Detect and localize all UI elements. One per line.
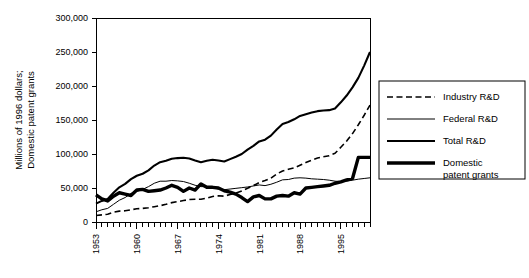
legend-label[interactable]: Industry R&D [443,91,500,102]
y-tick-label: 50,000 [60,183,88,193]
y-axis-title-line: Millions of 1996 dollars; [13,70,24,169]
y-axis-title: Millions of 1996 dollars;Domestic patent… [13,70,36,169]
x-tick-label: 1974 [214,234,224,254]
legend-label[interactable]: Federal R&D [443,113,498,124]
x-tick-label: 1960 [132,234,142,254]
x-tick-label: 1995 [336,234,346,254]
y-tick-label: 250,000 [55,47,88,57]
y-tick-label: 300,000 [55,13,88,23]
x-tick-label: 1981 [255,234,265,254]
x-tick-label: 1953 [91,234,101,254]
y-tick-label: 100,000 [55,149,88,159]
y-tick-label: 150,000 [55,115,88,125]
legend-label[interactable]: Total R&D [443,135,486,146]
legend-label-continued[interactable]: patent grants [443,169,499,180]
x-tick-label: 1967 [173,234,183,254]
legend-label[interactable]: Domestic [443,157,483,168]
chart-figure: Millions of 1996 dollars;Domestic patent… [0,0,529,278]
x-tick-label: 1988 [295,234,305,254]
y-tick-label: 0 [83,217,88,227]
line-chart: Millions of 1996 dollars;Domestic patent… [0,0,529,278]
y-axis-title-line: Domestic patent grants [25,71,36,169]
y-tick-label: 200,000 [55,81,88,91]
